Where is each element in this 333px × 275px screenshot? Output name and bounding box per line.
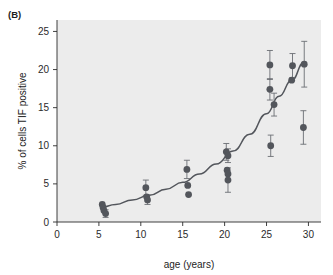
data-point-marker (184, 182, 191, 189)
y-tick-label: 10 (38, 140, 50, 151)
y-tick-label: 5 (43, 178, 49, 189)
y-tick-label: 15 (38, 102, 50, 113)
data-point-marker (300, 124, 307, 131)
data-point-marker (267, 142, 274, 149)
data-point-marker (289, 62, 296, 69)
data-point-marker (266, 62, 273, 69)
x-axis-title: age (years) (164, 259, 215, 270)
y-tick-label: 25 (38, 26, 50, 37)
data-point-marker (184, 166, 191, 173)
data-point-marker (225, 177, 232, 184)
x-tick-label: 30 (303, 229, 315, 240)
scatter-plot: 0510152025300510152025 (38, 20, 321, 240)
data-point-marker (266, 86, 273, 93)
x-tick-label: 25 (261, 229, 273, 240)
data-point-marker (144, 196, 151, 203)
data-point-marker (288, 77, 295, 84)
x-tick-label: 0 (54, 229, 60, 240)
data-point-marker (301, 61, 308, 68)
x-tick-label: 10 (135, 229, 147, 240)
y-tick-label: 0 (43, 217, 49, 228)
panel-label: (B) (8, 9, 21, 20)
x-tick-label: 5 (96, 229, 102, 240)
data-point-marker (185, 191, 192, 198)
data-point-marker (225, 152, 232, 159)
x-tick-label: 20 (219, 229, 231, 240)
y-axis-title: % of cells TIF positive (17, 72, 28, 170)
x-tick-label: 15 (177, 229, 189, 240)
data-point-marker (142, 184, 149, 191)
data-point-marker (225, 171, 232, 178)
data-point-marker (102, 210, 109, 217)
y-tick-label: 20 (38, 64, 50, 75)
figure-panel-b: (B) 0510152025300510152025 age (years) %… (0, 0, 333, 275)
data-point-marker (271, 101, 278, 108)
